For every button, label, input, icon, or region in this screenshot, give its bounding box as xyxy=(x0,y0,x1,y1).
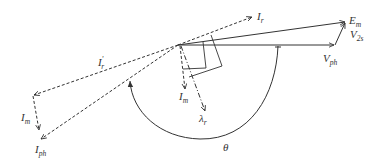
label-im-center: Im xyxy=(178,90,189,105)
ir-phasor xyxy=(178,17,252,45)
phasor-diagram: Em V2s Vph Ir I'r Im Iph Im λr θ xyxy=(0,0,381,165)
label-lambda-r: λr xyxy=(198,112,207,127)
label-ir-prime: I'r xyxy=(97,55,104,71)
label-im-left: Im xyxy=(20,111,31,126)
label-v2s: V2s xyxy=(350,28,363,43)
label-theta: θ xyxy=(223,141,229,153)
im-center-phasor xyxy=(180,46,185,89)
label-ir: Ir xyxy=(256,10,264,25)
iph-phasor xyxy=(41,45,178,139)
im-left-phasor xyxy=(33,96,39,130)
label-em: Em xyxy=(348,14,362,29)
label-iph: Iph xyxy=(34,143,46,158)
label-vph: Vph xyxy=(323,52,337,67)
ir-prime-phasor xyxy=(34,45,178,95)
em-phasor xyxy=(178,22,345,45)
v2s-phasor xyxy=(335,23,345,45)
right-angle-marker-inner xyxy=(183,42,206,69)
